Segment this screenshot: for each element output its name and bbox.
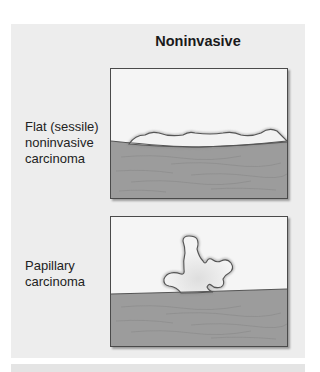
papillary-label-line-2: carcinoma — [25, 274, 85, 290]
flat-label-line-3: carcinoma — [25, 151, 99, 167]
flat-label-line-1: Flat (sessile) — [25, 119, 99, 135]
flat-label-line-2: noninvasive — [25, 135, 99, 151]
flat-carcinoma-illustration — [110, 68, 288, 199]
papillary-carcinoma-label: Papillary carcinoma — [25, 258, 85, 290]
papillary-carcinoma-illustration — [110, 216, 288, 347]
figure-title: Noninvasive — [110, 33, 286, 49]
bottom-divider-strip — [11, 364, 305, 372]
papillary-tumor-diagram-icon — [111, 217, 287, 346]
flat-carcinoma-label: Flat (sessile) noninvasive carcinoma — [25, 119, 99, 167]
papillary-label-line-1: Papillary — [25, 258, 85, 274]
flat-tumor-diagram-icon — [111, 69, 287, 198]
